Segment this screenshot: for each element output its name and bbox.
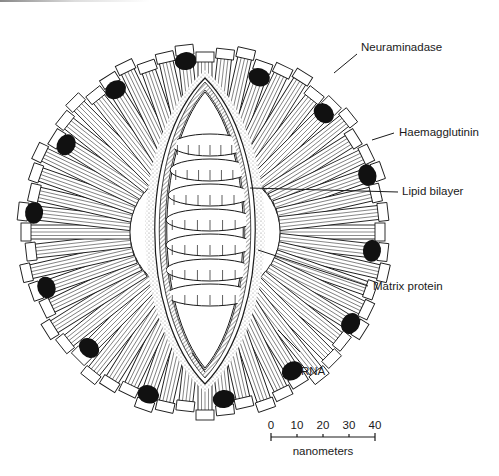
scale-tick-label: 0 bbox=[268, 419, 274, 431]
label-rna: RNA bbox=[301, 365, 325, 377]
scale-tick-label: 10 bbox=[291, 419, 304, 431]
scale-unit-label: nanometers bbox=[293, 445, 354, 457]
scale-bar bbox=[271, 433, 375, 441]
scale-tick-label: 30 bbox=[343, 419, 356, 431]
label-matrix-protein: Matrix protein bbox=[373, 280, 443, 292]
leader-haemagglutinin bbox=[372, 133, 394, 140]
label-lipid-bilayer: Lipid bilayer bbox=[402, 185, 463, 197]
virus-diagram bbox=[0, 0, 499, 476]
scale-tick-label: 20 bbox=[317, 419, 330, 431]
leader-neuraminidase bbox=[334, 54, 357, 73]
scale-tick-label: 40 bbox=[369, 419, 382, 431]
label-neuraminidase: Neuraminadase bbox=[361, 41, 442, 53]
label-haemagglutinin: Haemagglutinin bbox=[399, 126, 479, 138]
